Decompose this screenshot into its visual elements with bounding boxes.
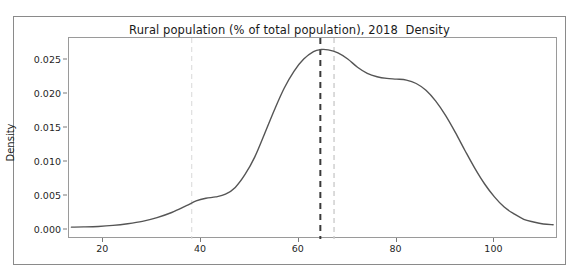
x-tick-label: 80: [390, 243, 402, 254]
y-tick-label: 0.005: [34, 190, 61, 201]
x-tick-label: 40: [194, 243, 206, 254]
plot-area: [68, 37, 557, 238]
y-tick-label: 0.020: [34, 88, 61, 99]
y-tick-label: 0.025: [34, 54, 61, 65]
x-tick-mark: [102, 238, 103, 242]
x-tick-mark: [493, 238, 494, 242]
x-tick-mark: [396, 238, 397, 242]
x-tick-label: 100: [484, 243, 502, 254]
y-tick-mark: [63, 127, 67, 128]
x-tick-mark: [298, 238, 299, 242]
x-tick-mark: [200, 238, 201, 242]
density-curve-svg: [69, 38, 558, 239]
density-curve-path: [71, 49, 553, 227]
y-tick-mark: [63, 93, 67, 94]
y-tick-label: 0.015: [34, 122, 61, 133]
y-axis-ticks: 0.0000.0050.0100.0150.0200.025: [14, 17, 61, 266]
chart-title: Rural population (% of total population)…: [14, 23, 565, 37]
y-tick-label: 0.000: [34, 224, 61, 235]
x-tick-label: 60: [292, 243, 304, 254]
x-tick-label: 20: [96, 243, 108, 254]
y-tick-label: 0.010: [34, 156, 61, 167]
y-tick-mark: [63, 59, 67, 60]
y-tick-mark: [63, 229, 67, 230]
y-tick-mark: [63, 161, 67, 162]
figure-panel: Rural population (% of total population)…: [13, 16, 566, 265]
y-tick-mark: [63, 195, 67, 196]
